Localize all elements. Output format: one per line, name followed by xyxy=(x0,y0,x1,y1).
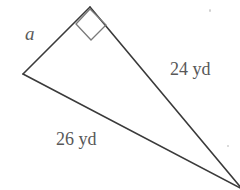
right-triangle-drawing xyxy=(0,0,240,190)
scan-speck-top-right xyxy=(209,9,211,12)
triangle-edge-24yd xyxy=(90,7,240,189)
geometry-figure: a 24 yd 26 yd xyxy=(0,0,240,190)
label-side-26yd: 26 yd xyxy=(56,130,97,148)
right-angle-icon xyxy=(76,9,106,40)
scan-speck-mid-right xyxy=(227,145,229,147)
label-side-24yd: 24 yd xyxy=(170,60,211,78)
label-side-a: a xyxy=(25,24,35,43)
